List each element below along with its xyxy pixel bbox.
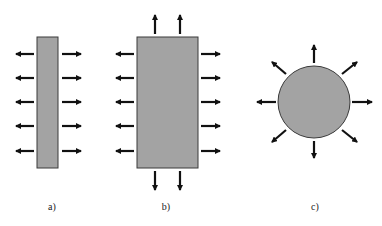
- diagram-canvas: [0, 0, 382, 226]
- wide-rectangle: [137, 37, 198, 168]
- arrows-right: [201, 54, 220, 151]
- panel-a-label: a): [48, 201, 56, 212]
- thin-rectangle: [37, 37, 58, 168]
- circle: [278, 66, 350, 138]
- arrows-left: [16, 54, 34, 151]
- arrows-right: [62, 54, 81, 151]
- arrows-up: [155, 15, 180, 34]
- panel-b: [116, 15, 220, 190]
- arrows-left: [116, 54, 134, 151]
- panel-c: [257, 45, 372, 158]
- panel-b-label: b): [162, 201, 170, 212]
- panel-a: [16, 37, 81, 168]
- panel-c-label: c): [311, 201, 319, 212]
- arrows-down: [155, 171, 180, 190]
